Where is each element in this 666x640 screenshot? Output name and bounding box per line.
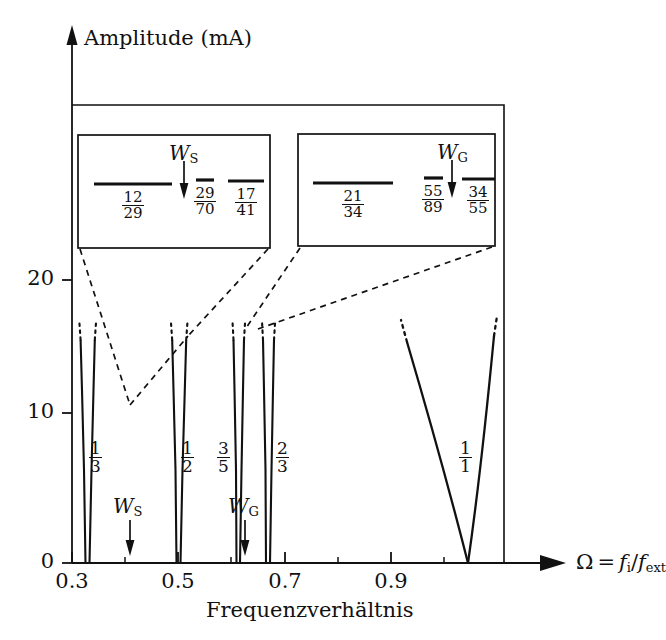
inset-right-fraction-0: 21 34 (333, 189, 373, 221)
x-tick-label-05: 0.5 (148, 571, 208, 592)
tongue-1-3-denominator: 3 (89, 457, 102, 475)
inset-right-frac-0-numerator: 21 (342, 189, 363, 204)
inset-right-frac-2-numerator: 34 (467, 185, 488, 200)
inset-right-fraction-2: 34 55 (458, 185, 498, 217)
tongue-1-3-dotted (79, 320, 96, 340)
inset-left-frac-0-denominator: 29 (122, 205, 143, 221)
tongue-label-1-2: 1 2 (181, 440, 194, 476)
ws-letter: W (113, 494, 134, 518)
inset-left-fraction-2: 17 41 (226, 187, 266, 219)
wg-subscript: G (249, 504, 259, 519)
tongue-1-1-dotted (401, 316, 497, 342)
tongue-label-1-3: 1 3 (89, 440, 102, 476)
inset-right-w-letter: W (437, 140, 458, 164)
tongue-3-5-numerator: 3 (217, 440, 230, 457)
axis-marker-wg-arrow (230, 520, 260, 560)
inset-right-fraction-1: 55 89 (413, 184, 453, 216)
x-tick-label-09: 0.9 (361, 571, 421, 592)
tongue-1-2-denominator: 2 (181, 457, 194, 475)
equals-symbol: = (593, 550, 619, 574)
wg-letter: W (228, 494, 249, 518)
y-axis-arrowhead (67, 25, 78, 45)
inset-left-frac-1-denominator: 70 (194, 201, 215, 217)
f-sub-ext: ext (646, 560, 666, 575)
tongue-label-1-1: 1 1 (459, 440, 472, 476)
f-sub-i: i (627, 560, 631, 575)
axis-marker-wg-label: WG (228, 494, 259, 518)
y-tick-label-0: 0 (10, 551, 54, 572)
tongue-1-3-numerator: 1 (89, 440, 102, 457)
tongue-1-2-dotted (171, 320, 188, 340)
x-tick-label-07: 0.7 (255, 571, 315, 592)
inset-right-frac-0-denominator: 34 (342, 204, 363, 220)
tongue-2-3-denominator: 3 (276, 457, 289, 475)
tongue-3-5-denominator: 5 (217, 457, 230, 475)
f-symbol: f (619, 550, 627, 574)
x-axis-arrowhead (540, 555, 566, 571)
axis-marker-ws-label: WS (113, 494, 142, 518)
tongue-2-3-numerator: 2 (276, 440, 289, 457)
tongue-label-3-5: 3 5 (217, 440, 230, 476)
inset-left-w-letter: W (169, 141, 190, 165)
leader-lines (80, 247, 492, 405)
omega-symbol: Ω (576, 550, 593, 574)
inset-left-frac-2-numerator: 17 (235, 187, 256, 202)
tongue-1-2-numerator: 1 (181, 440, 194, 457)
f-symbol-2: f (638, 550, 646, 574)
inset-left-frac-0-numerator: 12 (122, 190, 143, 205)
tongue-1-1 (407, 336, 494, 563)
ws-subscript: S (134, 504, 143, 519)
y-axis-title: Amplitude (mA) (84, 28, 252, 49)
inset-right-frac-2-denominator: 55 (467, 200, 488, 216)
inset-right-frac-1-numerator: 55 (422, 184, 443, 199)
slash-symbol: / (631, 550, 638, 574)
tongue-1-1-numerator: 1 (459, 440, 472, 457)
x-axis-math-label: Ω=fi/fext (576, 552, 666, 573)
x-tick-label-03: 0.3 (42, 571, 102, 592)
inset-left-fraction-1: 29 70 (185, 186, 225, 218)
inset-left-marker-label: WS (169, 141, 198, 165)
inset-left-w-subscript: S (190, 151, 199, 166)
inset-left-frac-1-numerator: 29 (194, 186, 215, 201)
axis-marker-ws-arrow (115, 520, 145, 560)
y-tick-label-20: 20 (10, 268, 54, 289)
tongue-1-1-denominator: 1 (459, 457, 472, 475)
inset-right-frac-1-denominator: 89 (422, 199, 443, 215)
tongue-2-3 (263, 340, 274, 563)
inset-left-fraction-0: 12 29 (113, 190, 153, 222)
tongue-3-5-dotted (232, 320, 245, 340)
inset-right-marker-label: WG (437, 140, 468, 164)
inset-left-frac-2-denominator: 41 (235, 202, 256, 218)
y-tick-label-10: 10 (10, 401, 54, 422)
inset-right-w-subscript: G (458, 150, 468, 165)
y-tick-marks (62, 280, 72, 563)
tongue-label-2-3: 2 3 (276, 440, 289, 476)
x-axis-title: Frequenzverhältnis (206, 600, 414, 621)
